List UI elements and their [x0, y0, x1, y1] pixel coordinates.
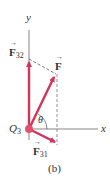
- dashed-line-top: [29, 59, 56, 74]
- force-diagram: [0, 0, 110, 185]
- y-axis-label: y: [26, 12, 31, 23]
- vector-f31: [29, 129, 55, 142]
- label-f31: → F31: [33, 146, 48, 159]
- label-f: → F: [55, 61, 62, 72]
- label-q3: Q3: [9, 123, 21, 136]
- angle-theta-label: θ: [38, 115, 43, 125]
- figure-caption: (b): [48, 163, 61, 174]
- charge-q3: [25, 125, 33, 133]
- label-f32: → F32: [9, 47, 24, 60]
- x-axis-label: x: [101, 123, 106, 134]
